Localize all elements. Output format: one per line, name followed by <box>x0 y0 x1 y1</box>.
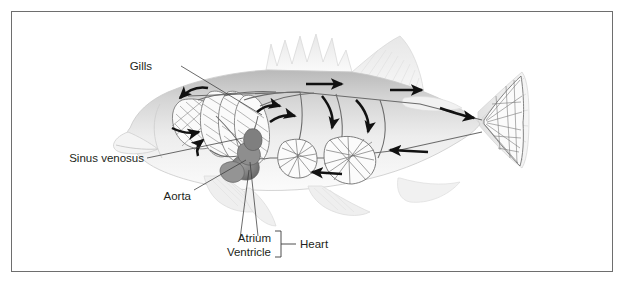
label-heart: Heart <box>300 238 329 250</box>
bulbus-arteriosus-shape <box>244 129 262 151</box>
label-gills: Gills <box>130 60 153 72</box>
fish-circulatory-diagram: Gills Sinus venosus Aorta Atrium Ventric… <box>0 0 628 294</box>
spiny-dorsal-fin <box>266 34 352 72</box>
label-atrium: Atrium <box>238 232 271 244</box>
label-aorta: Aorta <box>164 190 192 202</box>
heart-bracket <box>275 231 296 257</box>
label-sinus-venosus: Sinus venosus <box>69 152 144 164</box>
capillary-bed-1 <box>278 139 317 178</box>
label-ventricle: Ventricle <box>227 246 271 258</box>
anal-fin <box>308 186 370 215</box>
lower-caudal-fin <box>398 178 461 202</box>
pelvic-fin <box>245 188 276 226</box>
figure-root: Gills Sinus venosus Aorta Atrium Ventric… <box>0 0 628 294</box>
